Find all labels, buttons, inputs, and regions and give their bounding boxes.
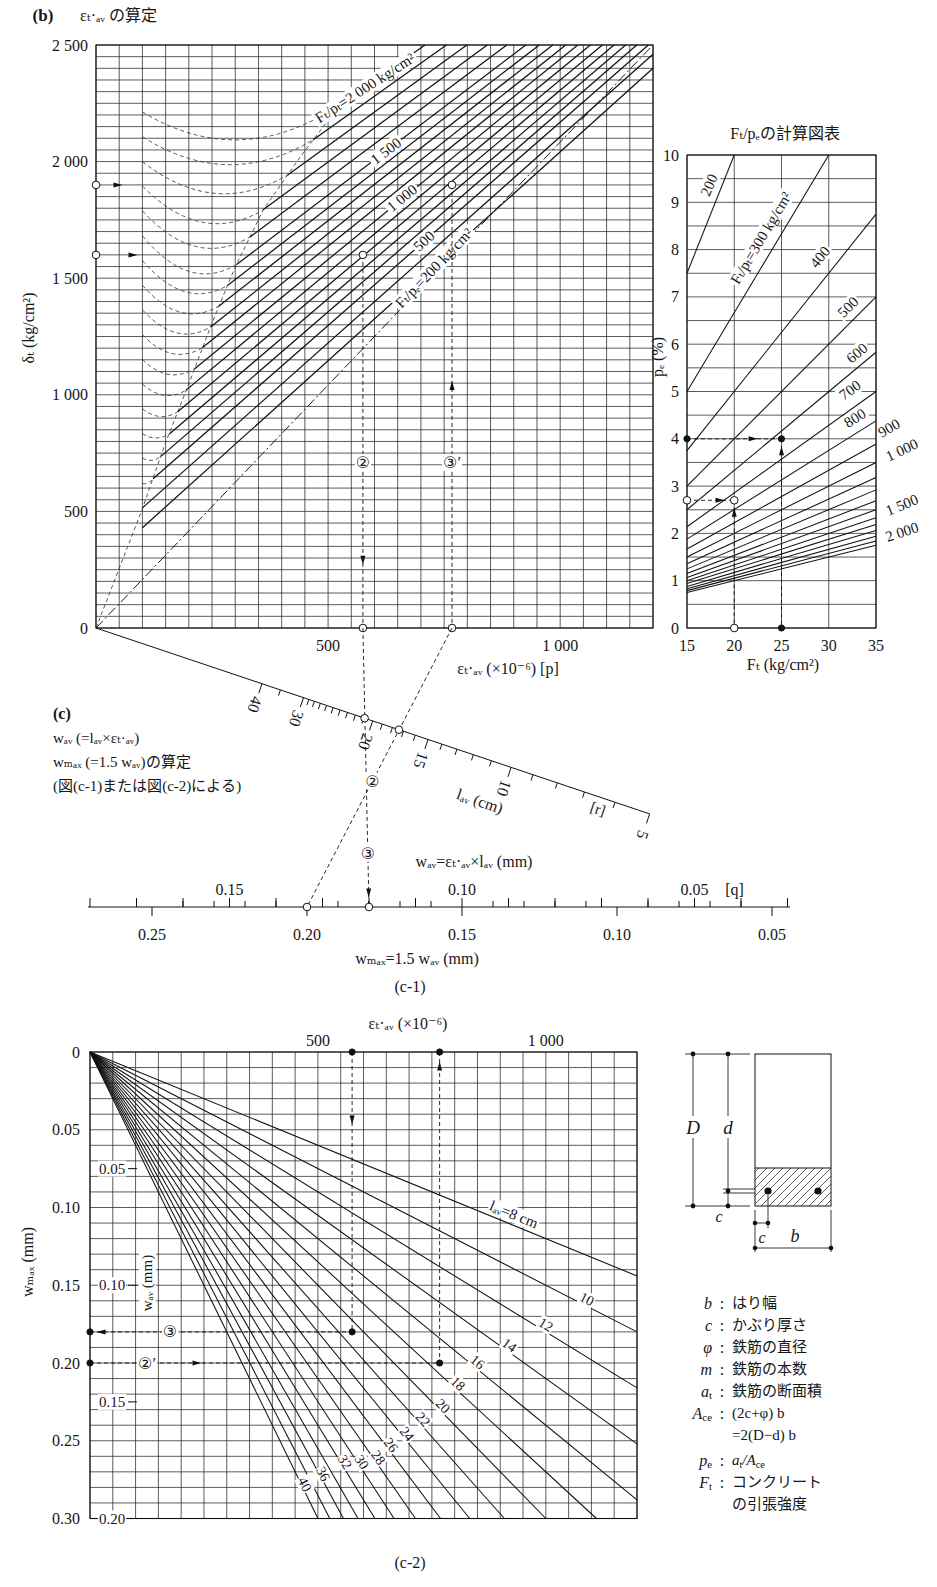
panel-c2-chart: εₜ·ₐᵥ (×10⁻⁶) wₘₐₓ (mm) (c-2) 00.050.100…	[19, 1015, 638, 1572]
l-av-minor-tick	[331, 708, 333, 714]
step-label-step3: ③′	[443, 454, 461, 471]
text-run: 鉄筋の本数	[732, 1361, 807, 1377]
text-run: a	[732, 1452, 740, 1468]
intersection-marker	[778, 436, 784, 442]
dimension-dot	[726, 1189, 731, 1194]
hatch-stroke	[825, 1200, 831, 1206]
arrow-down-icon	[366, 889, 371, 898]
series-dashed-k1400	[142, 260, 227, 293]
x-tick-label: 1 000	[542, 637, 578, 654]
y-tick-label: 1 000	[52, 386, 88, 403]
legend-separator: :	[720, 1295, 724, 1312]
w-max-tick-label: 0.10	[603, 926, 631, 943]
l-av-major-tick	[508, 767, 511, 776]
text-run: m	[700, 1361, 712, 1378]
w-scale: 0.250.200.150.100.050.150.100.05[q]	[88, 881, 790, 943]
eps-axis-marker	[437, 1049, 443, 1055]
l-av-minor-tick	[413, 735, 415, 741]
step-label-step3: ③	[361, 845, 375, 862]
example-path-step3	[363, 628, 369, 907]
line-label-k2000: 2 000	[883, 519, 920, 545]
rebar-dot	[764, 1187, 771, 1194]
arrow-up-icon	[732, 508, 737, 517]
subscript: ce	[702, 1411, 712, 1423]
dimension-dot	[753, 1246, 758, 1251]
panel-c-line-1: wₐᵥ (=lₐᵥ×εₜ·ₐᵥ)	[53, 730, 139, 747]
w-max-scale-label: wₘₐₓ=1.5 wₐᵥ (mm)	[355, 950, 479, 968]
series-dashed-k600	[142, 456, 161, 460]
y-tick-label: 0.25	[52, 1432, 80, 1449]
line-label-l8-group: lₐᵥ=8 cm	[486, 1197, 541, 1232]
l-av-minor-tick	[583, 792, 585, 798]
hatch-stroke	[755, 1168, 759, 1172]
panel-c2-line-labels: lₐᵥ=8 cm1012141618202224262830323640	[294, 1197, 597, 1495]
legend-symbol: Ace	[692, 1405, 713, 1424]
line-label-l8: lₐᵥ=8 cm	[487, 1198, 540, 1232]
w-av-tick-label-group: 0.20	[98, 1511, 126, 1527]
series-dashed-k1100	[142, 335, 202, 355]
y-tick-label: 0.15	[52, 1277, 80, 1294]
legend-row: Ace:(2c+φ) b=2(D−d) b	[692, 1405, 796, 1445]
line-label-l16-group: 16	[467, 1351, 489, 1373]
r-scale-tag: [r]	[588, 799, 607, 819]
y-tick-label: 0.10	[52, 1199, 80, 1216]
arrow-up-icon	[450, 381, 455, 390]
line-label-k600-group: 600	[842, 338, 873, 367]
w-av-tick-label: 0.15	[216, 881, 244, 898]
hatch-stroke	[769, 1168, 807, 1206]
series-dashed-k1000	[142, 359, 194, 374]
legend-definition-line2: の引張強度	[732, 1496, 807, 1512]
line-label-k900: 900	[875, 415, 902, 440]
x-tick-label: 500	[316, 637, 340, 654]
arrow-right-icon	[129, 252, 138, 257]
line-label-k400-group: 400	[805, 242, 834, 273]
l-av-minor-tick	[471, 755, 473, 761]
y-tick-label: 1	[671, 572, 679, 589]
intersection-marker	[349, 1329, 355, 1335]
text-run: 鉄筋の断面積	[732, 1383, 822, 1399]
y-tick-label: 2 000	[52, 153, 88, 170]
x-axis-label: εₜ·ₐᵥ (×10⁻⁶)	[369, 1015, 448, 1033]
line-label-l22: 22	[413, 1409, 434, 1429]
label-d: d	[723, 1117, 733, 1138]
l-av-minor-tick	[346, 712, 348, 718]
delta-input-marker	[92, 251, 100, 259]
series-dashed-k1600	[142, 211, 250, 249]
text-run: =2(D−d) b	[732, 1427, 796, 1444]
text-run: a	[701, 1383, 709, 1400]
step-label-step3-group: ③	[360, 845, 376, 862]
y-tick-label: 0	[80, 620, 88, 637]
l-av-tick-label: 5	[633, 828, 652, 841]
text-run: /A	[741, 1452, 756, 1468]
l-av-minor-tick	[307, 699, 309, 705]
series-line-k1900	[313, 45, 446, 140]
line-label-l12-group: 12	[535, 1314, 556, 1335]
legend-symbol: Ft	[698, 1474, 712, 1493]
x-tick-label: 35	[868, 637, 884, 654]
line-label-k2000-group: Fₜ/pₜ=2 000 kg/cm²	[311, 49, 420, 128]
panel-ft-pe-chart: Fₜ/pₑの計算図表 pₑ (%) Fₜ (kg/cm²) 0123456789…	[649, 124, 921, 674]
panel-c1-caption: (c-1)	[394, 978, 425, 996]
panel-c2-grid	[90, 1052, 637, 1519]
arrow-down-icon	[350, 1116, 355, 1125]
line-label-l20: 20	[433, 1396, 454, 1416]
symbol-legend: b:はり幅c:かぶり厚さφ:鉄筋の直径m:鉄筋の本数at:鉄筋の断面積Ace:(…	[692, 1295, 822, 1513]
boundary-dashed-curve	[96, 95, 350, 628]
text-run: c	[705, 1317, 712, 1334]
l-av-minor-tick	[455, 749, 457, 755]
dimension-dot	[766, 1221, 771, 1226]
text-run: F	[698, 1474, 709, 1491]
y-axis-label: wₘₐₓ (mm)	[19, 1227, 37, 1297]
w-max-marker	[365, 903, 373, 911]
text-run: の引張強度	[732, 1496, 807, 1512]
eps-axis-marker	[448, 624, 456, 632]
w-av-tick-label: 0.10	[99, 1277, 125, 1293]
y-tick-label: 7	[671, 288, 679, 305]
x-tick-label: 500	[306, 1032, 330, 1049]
arrow-right-icon	[193, 1361, 202, 1366]
line-label-l24-group: 24	[396, 1423, 418, 1445]
x-tick-label: 20	[726, 637, 742, 654]
legend-separator: :	[720, 1361, 724, 1378]
nomograph-figure: (b) εₜ·ₐᵥ の算定 δₜ (kg/cm²) εₜ·ₐᵥ (×10⁻⁶) …	[0, 0, 937, 1587]
legend-definition-line2: =2(D−d) b	[732, 1427, 796, 1444]
